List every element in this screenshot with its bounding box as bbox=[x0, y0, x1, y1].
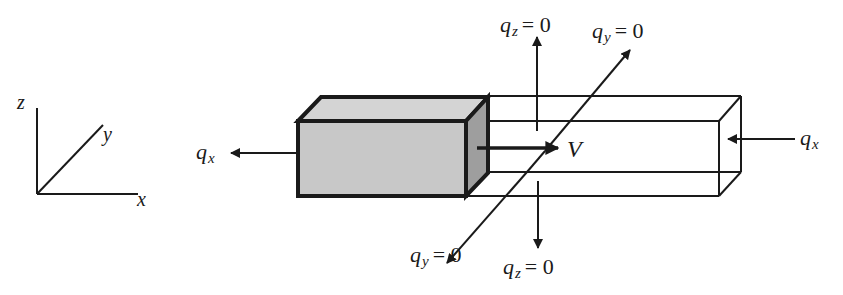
block-top-face bbox=[298, 97, 488, 121]
qx-right-label: qx bbox=[800, 127, 819, 152]
z-axis-label: z bbox=[17, 92, 25, 112]
qy-up-arrow bbox=[545, 50, 630, 151]
flow-channel-diagram: z y x V qx qx qz= 0 qy= 0 qy= 0 qz= 0 bbox=[0, 0, 843, 295]
y-axis bbox=[37, 125, 103, 194]
coordinate-axes bbox=[37, 108, 138, 194]
block-front-face bbox=[298, 121, 466, 196]
qy-top-label: qy= 0 bbox=[592, 20, 644, 45]
qy-bottom-label: qy= 0 bbox=[410, 244, 462, 269]
solid-block bbox=[298, 97, 488, 196]
x-axis-label: x bbox=[137, 189, 146, 209]
channel-outline bbox=[466, 96, 741, 196]
qy-axis-line-mid bbox=[527, 151, 545, 172]
y-axis-label: y bbox=[103, 124, 112, 144]
qz-bottom-label: qz= 0 bbox=[503, 256, 554, 281]
qx-left-label: qx bbox=[196, 141, 215, 166]
qz-top-label: qz= 0 bbox=[500, 14, 551, 39]
velocity-label: V bbox=[567, 137, 582, 161]
